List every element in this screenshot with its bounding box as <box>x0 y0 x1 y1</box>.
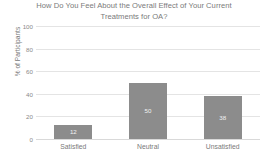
gridline <box>36 26 260 27</box>
y-axis-tick-label: 60 <box>7 68 33 75</box>
chart-title-line-2: Treatments for OA? <box>101 12 168 21</box>
bar[interactable]: 38 <box>204 96 242 139</box>
x-axis-tick-label: Neutral <box>111 143 186 150</box>
bar[interactable]: 50 <box>129 83 167 140</box>
y-axis-tick-label: 100 <box>7 23 33 30</box>
gridline <box>36 71 260 72</box>
bar-value-label: 38 <box>204 114 242 121</box>
y-axis-tick-label: 20 <box>7 113 33 120</box>
y-axis-tick-label: 0 <box>7 136 33 143</box>
x-axis-tick-label: Satisfied <box>36 143 111 150</box>
bar[interactable]: 12 <box>54 125 92 139</box>
bar-value-label: 12 <box>54 128 92 135</box>
y-axis-tick-label: 80 <box>7 45 33 52</box>
y-axis-tick-label: 40 <box>7 90 33 97</box>
bar-chart: How Do You Feel About the Overall Effect… <box>0 0 265 162</box>
chart-title-line-1: How Do You Feel About the Overall Effect… <box>36 1 231 10</box>
bar-value-label: 50 <box>129 107 167 114</box>
x-axis-tick-label: Unsatisfied <box>185 143 260 150</box>
gridline <box>36 49 260 50</box>
chart-title: How Do You Feel About the Overall Effect… <box>22 1 246 22</box>
plot-area: 125038 <box>36 26 260 139</box>
gridline <box>36 139 260 140</box>
